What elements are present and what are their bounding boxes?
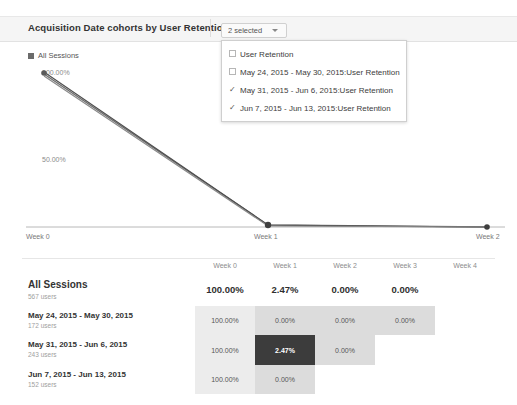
cohort-name: May 24, 2015 - May 30, 2015 xyxy=(28,311,195,321)
column-header-label xyxy=(22,258,195,274)
retention-cell: 100.00% xyxy=(195,335,255,364)
retention-cell xyxy=(435,365,495,394)
checkbox-icon[interactable] xyxy=(229,68,240,77)
dropdown-item-label: May 24, 2015 - May 30, 2015:User Retenti… xyxy=(240,68,400,77)
table-header-row: Week 0Week 1Week 2Week 3Week 4 xyxy=(22,258,495,274)
cohort-user-count: 567 users xyxy=(28,293,195,301)
retention-cell: 100.00% xyxy=(195,306,255,335)
retention-cell xyxy=(375,365,435,394)
retention-cell: 0.00% xyxy=(255,365,315,394)
retention-cell: 0.00% xyxy=(255,306,315,335)
retention-cell: 2.47% xyxy=(255,335,315,364)
retention-cell: 0.00% xyxy=(375,306,435,335)
dropdown-item-1[interactable]: May 24, 2015 - May 30, 2015:User Retenti… xyxy=(222,63,406,81)
row-label-cell: All Sessions567 users xyxy=(22,274,195,306)
retention-cell: 0.00% xyxy=(315,306,375,335)
table-top-divider xyxy=(22,258,495,259)
table-body: All Sessions567 users100.00%2.47%0.00%0.… xyxy=(22,274,495,394)
table-row: All Sessions567 users100.00%2.47%0.00%0.… xyxy=(22,274,495,306)
retention-cell: 0.00% xyxy=(375,274,435,306)
cohort-user-count: 152 users xyxy=(28,381,195,389)
retention-cell xyxy=(315,365,375,394)
retention-cell xyxy=(435,306,495,335)
column-header-week-3: Week 3 xyxy=(375,258,435,274)
cohort-name: Jun 7, 2015 - Jun 13, 2015 xyxy=(28,370,195,380)
retention-cell: 0.00% xyxy=(315,335,375,364)
metric-dropdown-menu[interactable]: User RetentionMay 24, 2015 - May 30, 201… xyxy=(221,40,407,122)
retention-cell: 100.00% xyxy=(195,274,255,306)
column-header-week-2: Week 2 xyxy=(315,258,375,274)
x-axis-tick-week-1: Week 1 xyxy=(254,233,278,240)
data-point-week0 xyxy=(41,70,47,76)
x-axis-tick-week-2: Week 2 xyxy=(476,233,500,240)
retention-cell xyxy=(435,274,495,306)
retention-cell xyxy=(435,335,495,364)
dropdown-item-0[interactable]: User Retention xyxy=(222,45,406,63)
data-point-week1 xyxy=(265,222,271,228)
cohort-name: May 31, 2015 - Jun 6, 2015 xyxy=(28,340,195,350)
checkmark-icon: ✓ xyxy=(229,104,240,112)
cohort-user-count: 243 users xyxy=(28,351,195,359)
data-point-week2 xyxy=(484,224,490,230)
checkbox-icon[interactable] xyxy=(229,50,240,59)
table-row: May 31, 2015 - Jun 6, 2015243 users100.0… xyxy=(22,335,495,364)
column-header-week-4: Week 4 xyxy=(435,258,495,274)
cohort-data-table: Week 0Week 1Week 2Week 3Week 4 All Sessi… xyxy=(22,258,495,394)
dropdown-item-3[interactable]: ✓Jun 7, 2015 - Jun 13, 2015:User Retenti… xyxy=(222,99,406,117)
chevron-down-icon xyxy=(272,29,278,32)
page-title: Acquisition Date cohorts by User Retenti… xyxy=(28,22,229,33)
x-axis-tick-week-0: Week 0 xyxy=(26,233,50,240)
retention-cell: 0.00% xyxy=(315,274,375,306)
header-divider xyxy=(210,19,211,37)
metric-select-button[interactable]: 2 selected xyxy=(221,23,287,38)
dropdown-item-label: User Retention xyxy=(240,50,293,59)
cohort-user-count: 172 users xyxy=(28,322,195,330)
dropdown-item-label: Jun 7, 2015 - Jun 13, 2015:User Retentio… xyxy=(240,104,391,113)
cohort-name: All Sessions xyxy=(28,279,195,292)
retention-cell xyxy=(375,335,435,364)
table-row: May 24, 2015 - May 30, 2015172 users100.… xyxy=(22,306,495,335)
row-label-cell: May 31, 2015 - Jun 6, 2015243 users xyxy=(22,335,195,364)
table-header: Week 0Week 1Week 2Week 3Week 4 xyxy=(22,258,495,274)
retention-cell: 2.47% xyxy=(255,274,315,306)
metric-select-label: 2 selected xyxy=(228,26,262,35)
dropdown-item-2[interactable]: ✓May 31, 2015 - Jun 6, 2015:User Retenti… xyxy=(222,81,406,99)
row-label-cell: May 24, 2015 - May 30, 2015172 users xyxy=(22,306,195,335)
row-label-cell: Jun 7, 2015 - Jun 13, 2015152 users xyxy=(22,365,195,394)
column-header-week-0: Week 0 xyxy=(195,258,255,274)
cohort-table: Week 0Week 1Week 2Week 3Week 4 All Sessi… xyxy=(0,258,517,394)
retention-cell: 100.00% xyxy=(195,365,255,394)
dropdown-item-label: May 31, 2015 - Jun 6, 2015:User Retentio… xyxy=(240,86,393,95)
table-row: Jun 7, 2015 - Jun 13, 2015152 users100.0… xyxy=(22,365,495,394)
column-header-week-1: Week 1 xyxy=(255,258,315,274)
checkmark-icon: ✓ xyxy=(229,86,240,94)
